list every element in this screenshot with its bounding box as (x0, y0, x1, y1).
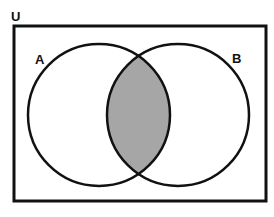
venn-diagram: U A B (0, 0, 274, 217)
set-b-label: B (232, 51, 241, 66)
universe-label: U (11, 9, 20, 24)
set-a-label: A (35, 52, 45, 67)
